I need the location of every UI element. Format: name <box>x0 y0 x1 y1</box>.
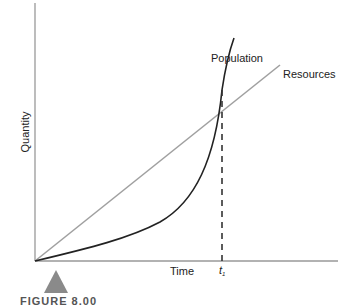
resources-line <box>35 65 280 261</box>
y-axis-label: Quantity <box>19 111 31 152</box>
figure-caption: FIGURE 8.00 <box>20 295 97 307</box>
population-label: Population <box>211 52 263 64</box>
triangle-marker-icon <box>44 270 68 293</box>
t1-label: t1 <box>219 264 225 277</box>
population-curve <box>35 38 234 261</box>
x-axis-label: Time <box>170 265 194 277</box>
resources-label: Resources <box>283 68 336 80</box>
t1-sub: 1 <box>222 271 225 277</box>
